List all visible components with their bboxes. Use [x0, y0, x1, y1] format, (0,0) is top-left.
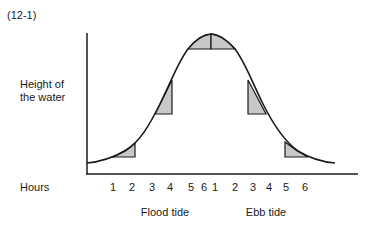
shaded-region-ebb-1-2 — [211, 34, 235, 49]
tick-ebb-4: 4 — [266, 181, 272, 194]
tick-ebb-2: 2 — [232, 181, 238, 194]
ebb-tide-label: Ebb tide — [246, 206, 286, 219]
tick-flood-1: 1 — [110, 181, 116, 194]
tick-ebb-6: 6 — [302, 181, 308, 194]
tick-ebb-5: 5 — [283, 181, 289, 194]
tick-ebb-1: 1 — [212, 181, 218, 194]
tick-flood-3: 3 — [149, 181, 155, 194]
shaded-region-flood-5-6 — [188, 34, 211, 49]
tick-flood-5: 5 — [188, 181, 194, 194]
shaded-region-ebb-3-4 — [248, 80, 266, 114]
tick-flood-2: 2 — [129, 181, 135, 194]
tick-flood-6: 6 — [201, 181, 207, 194]
tick-flood-4: 4 — [167, 181, 173, 194]
flood-tide-label: Flood tide — [141, 206, 189, 219]
tide-diagram — [0, 0, 376, 229]
tide-curve — [87, 34, 335, 163]
tick-ebb-3: 3 — [250, 181, 256, 194]
